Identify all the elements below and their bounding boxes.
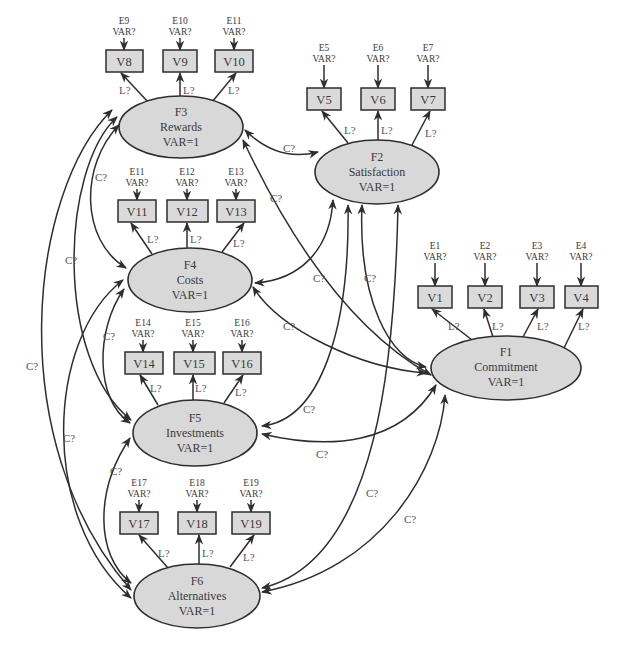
observed-v13[interactable]: V13 — [217, 200, 255, 222]
observed-v5[interactable]: V5 — [307, 88, 341, 110]
observed-v16[interactable]: V16 — [223, 352, 261, 374]
factor-name: Investments — [166, 426, 224, 440]
observed-label: V13 — [225, 205, 247, 219]
factor-variance: VAR=1 — [177, 441, 214, 455]
observed-v12[interactable]: V12 — [167, 200, 208, 222]
observed-label: V15 — [183, 357, 205, 371]
error-variance-label: VAR? — [239, 489, 262, 499]
covariance-f2-f5 — [262, 205, 348, 426]
error-e12: E12 VAR? — [175, 167, 198, 200]
error-label: E10 — [172, 16, 188, 26]
error-variance-label: VAR? — [112, 27, 135, 37]
observed-v19[interactable]: V19 — [232, 512, 270, 534]
observed-v6[interactable]: V6 — [361, 88, 395, 110]
error-variance-label: VAR? — [416, 54, 439, 64]
observed-label: V4 — [573, 291, 589, 305]
loading-label: L? — [119, 84, 131, 96]
observed-v10[interactable]: V10 — [215, 50, 253, 72]
factor-f2-satisfaction[interactable]: F2 Satisfaction VAR=1 — [315, 140, 439, 204]
loading-label: L? — [344, 124, 356, 136]
factor-id: F4 — [184, 258, 197, 272]
error-e8: E9 VAR? — [112, 16, 135, 50]
error-e5: E5 VAR? — [312, 43, 335, 88]
error-label: E15 — [185, 318, 201, 328]
error-e15: E15 VAR? — [181, 318, 204, 352]
factor-variance: VAR=1 — [163, 135, 200, 149]
covariance-f2-f4 — [255, 200, 333, 283]
loading-label: L? — [195, 382, 207, 394]
factor-name: Rewards — [160, 120, 202, 134]
error-variance-label: VAR? — [366, 54, 389, 64]
error-label: E4 — [576, 241, 587, 251]
error-variance-label: VAR? — [473, 252, 496, 262]
observed-v9[interactable]: V9 — [163, 50, 197, 72]
factor-f3-rewards[interactable]: F3 Rewards VAR=1 — [119, 96, 243, 158]
error-variance-label: VAR? — [125, 178, 148, 188]
covariance-label: C? — [313, 272, 325, 284]
loading-label: L? — [537, 320, 549, 332]
covariance-f3-f5 — [74, 117, 131, 420]
loading-label: L? — [202, 547, 214, 559]
covariance-f6-f1 — [262, 395, 445, 592]
observed-v2[interactable]: V2 — [468, 286, 502, 308]
factor-f6-alternatives[interactable]: F6 Alternatives VAR=1 — [134, 564, 260, 628]
error-label: E11 — [130, 167, 145, 177]
observed-v14[interactable]: V14 — [125, 352, 163, 374]
observed-v7[interactable]: V7 — [411, 88, 445, 110]
error-e4: E4 VAR? — [569, 241, 592, 286]
covariance-label: C? — [95, 171, 107, 183]
loading-f1-v3 — [523, 309, 538, 337]
covariance-f2-f6 — [262, 205, 398, 588]
observed-v11[interactable]: V11 — [118, 200, 156, 222]
covariance-label: C? — [110, 465, 122, 477]
loading-label: L? — [147, 233, 159, 245]
error-variance-label: VAR? — [230, 329, 253, 339]
error-label: E11 — [227, 16, 242, 26]
factor-variance: VAR=1 — [488, 375, 525, 389]
error-e7: E7 VAR? — [416, 43, 439, 88]
error-variance-label: VAR? — [569, 252, 592, 262]
observed-v17[interactable]: V17 — [120, 512, 158, 534]
error-e18: E18 VAR? — [185, 478, 208, 512]
loading-label: L? — [492, 320, 504, 332]
error-label: E1 — [430, 241, 441, 251]
loading-label: L? — [150, 382, 162, 394]
observed-v8[interactable]: V8 — [106, 50, 143, 72]
covariance-label: C? — [366, 487, 378, 499]
factor-id: F1 — [500, 345, 513, 359]
observed-v18[interactable]: V18 — [178, 512, 216, 534]
observed-v15[interactable]: V15 — [174, 352, 215, 374]
observed-v4[interactable]: V4 — [565, 286, 598, 308]
loading-label: L? — [158, 547, 170, 559]
error-variance-label: VAR? — [423, 252, 446, 262]
covariance-f3-f6 — [42, 110, 131, 590]
error-label: E13 — [228, 167, 244, 177]
error-e11: E11 VAR? — [125, 167, 148, 200]
factor-f1-commitment[interactable]: F1 Commitment VAR=1 — [431, 336, 581, 400]
observed-label: V12 — [176, 205, 198, 219]
observed-label: V7 — [420, 93, 435, 107]
covariance-label: C? — [404, 513, 416, 525]
error-e13: E13 VAR? — [224, 167, 247, 200]
observed-v3[interactable]: V3 — [520, 286, 554, 308]
error-e1: E1 VAR? — [423, 241, 446, 286]
loading-label: L? — [448, 320, 460, 332]
covariance-label: C? — [283, 320, 295, 332]
covariance-f2-f1 — [362, 205, 426, 367]
error-label: E2 — [480, 241, 491, 251]
observed-label: V6 — [370, 93, 385, 107]
factor-id: F5 — [189, 411, 202, 425]
factor-name: Alternatives — [168, 589, 227, 603]
factor-f5-investments[interactable]: F5 Investments VAR=1 — [133, 400, 257, 466]
factor-f4-costs[interactable]: F4 Costs VAR=1 — [128, 248, 252, 312]
observed-label: V18 — [186, 517, 208, 531]
error-variance-label: VAR? — [525, 252, 548, 262]
loading-label: L? — [578, 320, 590, 332]
error-e2: E2 VAR? — [473, 241, 496, 286]
error-label: E14 — [135, 318, 151, 328]
factor-variance: VAR=1 — [179, 604, 216, 618]
factor-id: F3 — [175, 105, 188, 119]
observed-v1[interactable]: V1 — [418, 286, 452, 308]
error-e3: E3 VAR? — [525, 241, 548, 286]
factor-name: Satisfaction — [349, 165, 406, 179]
